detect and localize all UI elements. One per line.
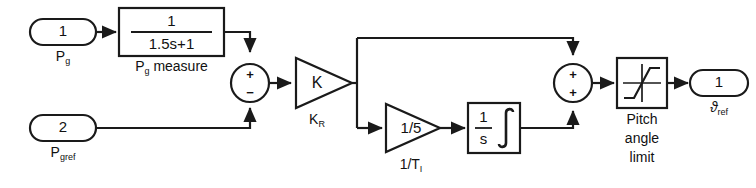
wire-integrator-to-sum2 xyxy=(520,111,573,128)
input-port-1-number: 1 xyxy=(30,23,96,38)
measure-caption: Pg measure xyxy=(114,59,229,73)
gain-k-caption: KR xyxy=(296,112,338,126)
measure-caption-sub: g xyxy=(144,66,149,76)
input-port-1-label-main: P xyxy=(56,48,65,64)
measure-numerator: 1 xyxy=(119,13,224,28)
wire-port2-to-sum1 xyxy=(96,108,250,128)
block-diagram-canvas: 1 Pg 1 1.5s+1 Pg measure 2 Pgref + − K K… xyxy=(0,0,756,188)
integrator-numerator: 1 xyxy=(468,109,499,124)
integrator-denominator: s xyxy=(468,131,499,146)
output-port-1-label-main: ϑ xyxy=(710,99,718,115)
wire-feedforward-to-sum2 xyxy=(357,38,573,55)
saturation-caption-line3: limit xyxy=(604,150,680,164)
output-port-1-label: ϑref xyxy=(686,100,752,114)
input-port-2-number: 2 xyxy=(30,119,96,134)
output-port-1-label-sub: ref xyxy=(718,107,729,117)
gain-ti-caption-sub: I xyxy=(420,164,423,174)
gain-ti-caption-main: 1/T xyxy=(400,156,420,172)
gain-k-caption-sub: R xyxy=(318,119,325,129)
gain-k-value: K xyxy=(296,75,338,91)
wire-measure-to-sum1 xyxy=(224,32,250,52)
sum-junction-1-top-sign: + xyxy=(231,68,269,81)
sum-junction-2-top-sign: + xyxy=(554,68,592,81)
gain-ti-caption: 1/TI xyxy=(383,157,439,171)
sum-junction-1-bottom-sign: − xyxy=(231,86,269,99)
output-port-1-number: 1 xyxy=(690,74,748,89)
measure-denominator: 1.5s+1 xyxy=(119,36,224,51)
gain-ti-value: 1/5 xyxy=(390,120,432,135)
input-port-1-label: Pg xyxy=(30,49,96,63)
input-port-2-label-sub: gref xyxy=(60,152,76,162)
input-port-1-label-sub: g xyxy=(65,56,70,66)
input-port-2-label: Pgref xyxy=(30,145,96,159)
measure-caption-tail: measure xyxy=(150,58,208,74)
input-port-2-label-main: P xyxy=(51,144,60,160)
sum-junction-2-bottom-sign: + xyxy=(554,86,592,99)
saturation-caption-line2: angle xyxy=(604,131,680,145)
saturation-caption-line1: Pitch xyxy=(604,112,680,126)
